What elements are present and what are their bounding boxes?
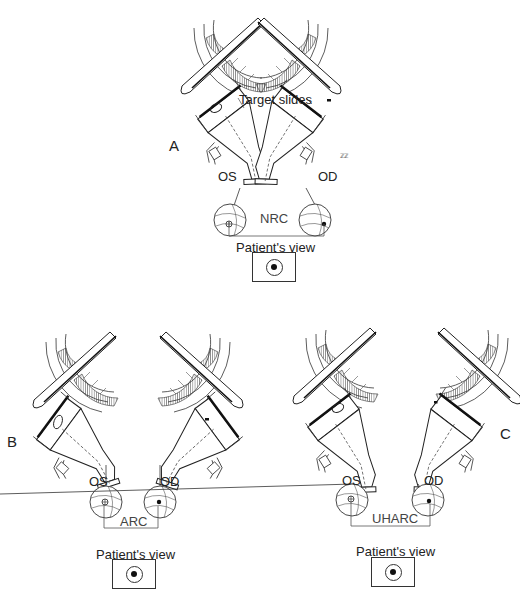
patients-view-box: [252, 252, 296, 282]
fixation-dot-icon: [390, 569, 396, 575]
panel-letter-b: B: [7, 434, 17, 449]
patients-view-box: [371, 557, 415, 587]
left-eye-label-os: OS: [89, 475, 108, 488]
right-eye-label-od: OD: [424, 474, 444, 487]
patients-view-box: [112, 559, 156, 589]
target-slides-annotation: Target slides: [239, 93, 312, 106]
panel-b-drawing: [23, 332, 254, 528]
fixation-dot-icon: [131, 571, 137, 577]
right-eye-label-od: OD: [318, 170, 338, 183]
correspondence-label-uharc: UHARC: [372, 512, 418, 525]
left-eye-label-os: OS: [342, 474, 361, 487]
panel-letter-c: C: [500, 426, 511, 441]
panel-a-drawing: ℤℤ: [181, 18, 349, 236]
right-eye-label-od: OD: [160, 475, 180, 488]
left-eye-label-os: OS: [218, 170, 237, 183]
panel-letter-a: A: [169, 138, 179, 153]
fixation-dot-icon: [271, 264, 277, 270]
correspondence-label-arc: ARC: [120, 515, 147, 528]
svg-text:ℤℤ: ℤℤ: [340, 153, 349, 159]
correspondence-label-nrc: NRC: [260, 212, 288, 225]
